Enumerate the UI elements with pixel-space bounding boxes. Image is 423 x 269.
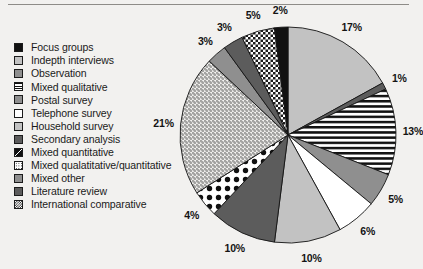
legend-item-label: Observation — [31, 68, 87, 79]
pie-slice-label: 3% — [217, 22, 232, 33]
legend-swatch-icon — [14, 82, 23, 91]
legend-item: Focus groups — [14, 41, 184, 54]
legend-item-label: Postal survey — [31, 95, 93, 106]
legend-swatch-icon — [14, 43, 23, 52]
pie-slice-label: 13% — [403, 126, 423, 137]
legend-item-label: Mixed other — [31, 173, 85, 184]
legend-swatch-icon — [14, 69, 23, 78]
pie-slice-label: 2% — [273, 5, 288, 16]
pie-svg — [178, 22, 406, 250]
pie-slice-label: 3% — [198, 36, 213, 47]
legend-item-label: Mixed qualitative — [31, 82, 108, 93]
legend-item-label: Literature review — [31, 186, 107, 197]
pie-slice-label: 10% — [301, 253, 321, 264]
legend-item-label: Mixed qualatitative/quantitative — [31, 160, 171, 171]
legend-item: Observation — [14, 67, 184, 80]
legend-item-label: Indepth interviews — [31, 55, 114, 66]
legend-item: Literature review — [14, 185, 184, 198]
pie-slice-label: 21% — [153, 118, 173, 129]
pie-slice-label: 17% — [341, 22, 361, 33]
legend-item: International comparative — [14, 198, 184, 211]
legend-swatch-icon — [14, 95, 23, 104]
pie-chart: 17%1%13%5%6%10%10%4%21%3%3%5%2% — [178, 22, 406, 250]
legend-swatch-icon — [14, 122, 23, 131]
legend-swatch-icon — [14, 174, 23, 183]
pie-slice-label: 1% — [392, 73, 407, 84]
legend-item-label: Household survey — [31, 121, 113, 132]
legend-item: Mixed quantitative — [14, 146, 184, 159]
legend-item: Indepth interviews — [14, 54, 184, 67]
legend-item-label: International comparative — [31, 199, 146, 210]
legend-item: Mixed qualitative — [14, 80, 184, 93]
pie-slice-group — [180, 27, 396, 243]
legend-item: Mixed qualatitative/quantitative — [14, 159, 184, 172]
pie-slice-label: 5% — [246, 10, 261, 21]
legend-swatch-icon — [14, 109, 23, 118]
legend-swatch-icon — [14, 148, 23, 157]
legend-item-label: Telephone survey — [31, 108, 112, 119]
legend-item-label: Mixed quantitative — [31, 147, 114, 158]
legend-item: Secondary analysis — [14, 133, 184, 146]
legend-item-label: Focus groups — [31, 42, 93, 53]
legend-swatch-icon — [14, 135, 23, 144]
pie-slice-label: 5% — [388, 193, 403, 204]
legend-swatch-icon — [14, 200, 23, 209]
pie-slice-label: 10% — [225, 243, 245, 254]
legend-swatch-icon — [14, 187, 23, 196]
pie-slice-label: 4% — [184, 209, 199, 220]
legend-item: Postal survey — [14, 93, 184, 106]
pie-slice-label: 6% — [360, 226, 375, 237]
top-divider-rule — [8, 4, 409, 5]
legend-item: Mixed other — [14, 172, 184, 185]
legend-swatch-icon — [14, 56, 23, 65]
legend-item-label: Secondary analysis — [31, 134, 120, 145]
legend-swatch-icon — [14, 161, 23, 170]
